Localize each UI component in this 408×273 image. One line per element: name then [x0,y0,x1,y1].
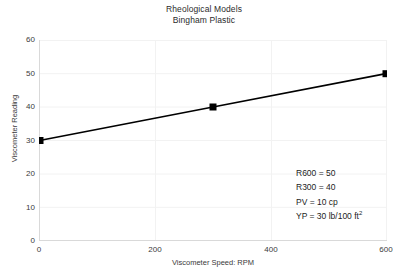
chart-container: Rheological Models Bingham Plastic 60 50… [0,0,408,273]
x-axis-title: Viscometer Speed: RPM [39,258,387,267]
chart-title-line-2: Bingham Plastic [0,15,408,26]
y-axis-title: Viscometer Reading [10,69,19,189]
annotation-yp-text: YP = 30 lb/100 ft [296,211,359,221]
y-tick-label-60: 60 [5,36,35,44]
annotation-yp-exponent: 2 [359,210,362,216]
x-tick-label-200: 200 [135,245,175,254]
x-tick-label-0: 0 [19,245,59,254]
y-tick-label-0: 0 [5,237,35,245]
x-axis-tick-labels: 0 200 400 600 [39,245,387,257]
annotation-pv: PV = 10 cp [296,195,362,209]
annotation-block: R600 = 50 R300 = 40 PV = 10 cp YP = 30 l… [296,166,362,224]
data-point-marker-600 [383,70,388,77]
chart-title: Rheological Models Bingham Plastic [0,4,408,26]
chart-title-line-1: Rheological Models [0,4,408,15]
annotation-r600: R600 = 50 [296,166,362,180]
data-point-marker-300 [210,104,217,111]
y-tick-label-10: 10 [5,204,35,212]
annotation-r300: R300 = 40 [296,180,362,194]
x-tick-label-600: 600 [366,245,406,254]
data-point-marker-0 [39,137,44,144]
x-tick-label-400: 400 [251,245,291,254]
annotation-yp: YP = 30 lb/100 ft2 [296,209,362,223]
